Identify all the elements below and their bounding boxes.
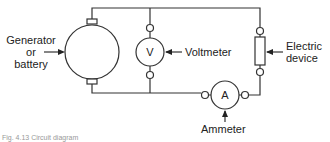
device-label: Electric device xyxy=(286,40,322,64)
electric-device-icon xyxy=(255,37,265,65)
voltmeter-label: Voltmeter xyxy=(185,46,231,58)
ammeter-right-wire xyxy=(249,76,260,95)
generator-label-line3: battery xyxy=(2,58,60,70)
top-wire xyxy=(92,8,260,27)
generator-label: Generator or battery xyxy=(2,34,60,70)
generator-top-terminal xyxy=(87,19,97,24)
voltmeter-symbol: V xyxy=(144,46,156,58)
generator-label-line2: or xyxy=(2,46,60,58)
circuit-diagram xyxy=(0,0,330,142)
generator-icon xyxy=(65,25,119,79)
ammeter-symbol: A xyxy=(219,89,231,101)
arrow-ammeter xyxy=(222,110,228,117)
device-label-line1: Electric xyxy=(286,40,322,52)
generator-label-line1: Generator xyxy=(2,34,60,46)
generator-bottom-terminal xyxy=(87,79,97,84)
arrow-voltmeter xyxy=(165,49,172,55)
device-label-line2: device xyxy=(286,52,322,64)
figure-caption: Fig. 4.13 Circuit diagram xyxy=(2,134,78,141)
ammeter-label: Ammeter xyxy=(201,123,246,135)
arrow-device xyxy=(266,49,273,55)
bottom-wire xyxy=(92,82,201,93)
